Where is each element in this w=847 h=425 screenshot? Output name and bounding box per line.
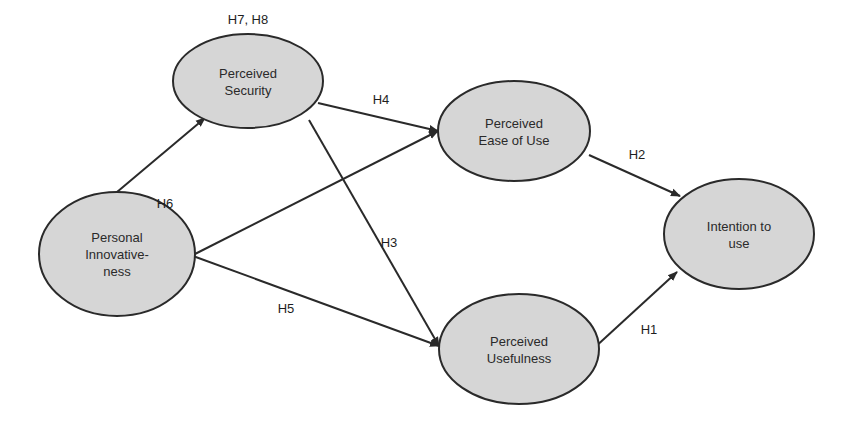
arrow-innovativeness-to-security <box>117 118 205 192</box>
node-ease: PerceivedEase of Use <box>438 81 590 181</box>
node-label-line: ness <box>103 264 131 279</box>
arrow-security-to-ease <box>318 103 438 131</box>
node-security: PerceivedSecurityH7, H8 <box>173 12 323 128</box>
node-ellipse <box>438 81 590 181</box>
hypothesis-label-h1: H1 <box>641 322 658 337</box>
hypothesis-label-h3: H3 <box>381 235 398 250</box>
hypothesis-label-h7-h8: H7, H8 <box>228 12 268 27</box>
structural-model-diagram: PerceivedSecurityH7, H8PersonalInnovativ… <box>0 0 847 425</box>
node-ellipse <box>173 34 323 128</box>
node-label-line: Perceived <box>490 334 548 349</box>
node-label-line: Innovative- <box>85 247 149 262</box>
node-label-line: Ease of Use <box>479 133 550 148</box>
arrow-innovativeness-to-usefulness <box>193 256 439 346</box>
node-label-line: Personal <box>91 230 142 245</box>
edges-layer <box>117 103 680 349</box>
hypothesis-label-h6: H6 <box>157 196 174 211</box>
nodes-layer: PerceivedSecurityH7, H8PersonalInnovativ… <box>39 12 814 404</box>
node-usefulness: PerceivedUsefulness <box>439 294 599 404</box>
hypothesis-label-h4: H4 <box>373 92 390 107</box>
node-ellipse <box>664 179 814 289</box>
hypothesis-label-h5: H5 <box>278 301 295 316</box>
node-ellipse <box>439 294 599 404</box>
arrow-innovativeness-to-ease <box>193 131 438 255</box>
arrow-usefulness-to-intention <box>593 272 677 349</box>
node-label-line: use <box>729 236 750 251</box>
arrow-security-to-usefulness <box>309 120 439 346</box>
node-intention: Intention touse <box>664 179 814 289</box>
node-label-line: Perceived <box>485 116 543 131</box>
node-label-line: Intention to <box>707 219 771 234</box>
node-label-line: Usefulness <box>487 351 552 366</box>
node-label-line: Perceived <box>219 66 277 81</box>
hypothesis-label-h2: H2 <box>629 147 646 162</box>
node-label-line: Security <box>225 83 272 98</box>
